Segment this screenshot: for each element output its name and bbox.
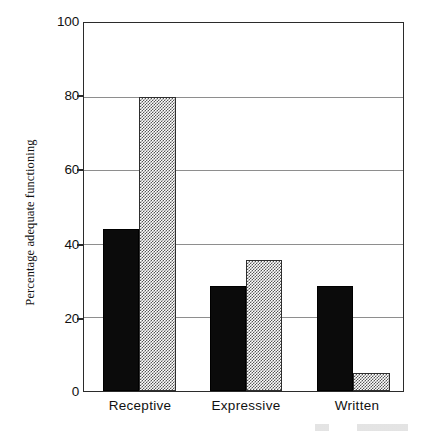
- y-tick-label-40: 40: [39, 237, 79, 252]
- x-tick-label-written: Written: [297, 398, 417, 413]
- y-tick-label-80: 80: [39, 88, 79, 103]
- plot-area: [83, 22, 404, 392]
- bar-receptive-series-2: [139, 97, 176, 391]
- bar-written-series-1: [317, 286, 353, 391]
- bar-chart-figure: Percentage adequate functioning 100 80 6…: [0, 0, 425, 432]
- bar-receptive-series-1: [103, 229, 139, 391]
- gridline-60: [84, 170, 403, 171]
- bar-expressive-series-1: [210, 286, 246, 391]
- y-tick-label-100: 100: [39, 14, 79, 29]
- y-tick-label-20: 20: [39, 311, 79, 326]
- y-axis-title: Percentage adequate functioning: [23, 103, 38, 343]
- bar-expressive-series-2: [246, 260, 282, 391]
- y-tick-label-0: 0: [39, 384, 79, 399]
- x-tick-label-expressive: Expressive: [186, 398, 306, 413]
- bar-written-series-2: [353, 373, 390, 391]
- scan-edge-artifact: [250, 424, 422, 431]
- y-tick-label-60: 60: [39, 162, 79, 177]
- gridline-80: [84, 97, 403, 98]
- x-tick-label-receptive: Receptive: [80, 398, 200, 413]
